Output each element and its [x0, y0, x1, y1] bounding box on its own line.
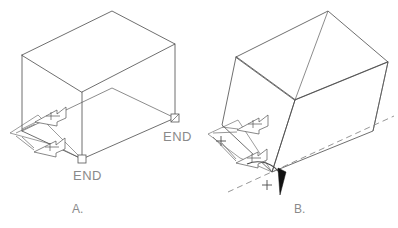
panel-a-group: END END A.	[10, 11, 192, 216]
box-b-fold-lines	[295, 11, 388, 131]
box-b-left-face	[222, 57, 295, 172]
box-b-top-face	[236, 11, 388, 100]
box-a-top-face	[22, 11, 175, 92]
plus-glyph-b-plate	[216, 136, 226, 146]
end-label-a-right: END	[163, 129, 192, 144]
technical-figure: END END A.	[0, 0, 398, 228]
dimension-arrow-b-upper	[237, 115, 268, 134]
box-b-right-face	[272, 62, 388, 172]
end-marker-a-right: END	[163, 114, 192, 144]
rotation-sign-plus	[262, 180, 272, 190]
end-label-a-bottom: END	[73, 168, 102, 183]
arrow-leaders-b	[213, 127, 238, 161]
end-marker-a-bottom: END	[73, 155, 102, 183]
caption-b: B.	[294, 202, 305, 216]
panel-b-group: B.	[208, 11, 394, 216]
caption-a: A.	[72, 202, 83, 216]
diagram-canvas: END END A.	[0, 0, 398, 228]
